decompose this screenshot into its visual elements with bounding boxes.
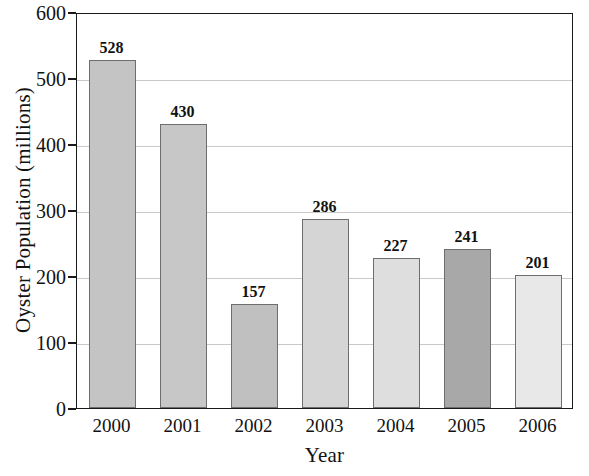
x-tick-label: 2005: [448, 415, 486, 437]
bar: [444, 249, 491, 408]
x-tick-label: 2002: [235, 415, 273, 437]
x-tick-label: 2004: [377, 415, 415, 437]
x-tick-label: 2001: [164, 415, 202, 437]
y-tick-mark: [68, 210, 76, 212]
gridline: [77, 80, 572, 81]
bar-value-label: 227: [384, 237, 408, 255]
bar: [89, 60, 136, 408]
y-tick-mark: [68, 408, 76, 410]
bar: [373, 258, 420, 408]
bar: [160, 124, 207, 408]
gridline: [77, 146, 572, 147]
y-tick-mark: [68, 12, 76, 14]
bar: [231, 304, 278, 408]
y-tick-mark: [68, 342, 76, 344]
x-tick-label: 2000: [93, 415, 131, 437]
x-tick-label: 2006: [519, 415, 557, 437]
x-axis-title: Year: [76, 443, 573, 468]
bar-value-label: 430: [171, 103, 195, 121]
bar-value-label: 241: [455, 228, 479, 246]
bar-value-label: 201: [526, 254, 550, 272]
y-tick-mark: [68, 144, 76, 146]
y-tick-mark: [68, 78, 76, 80]
y-tick-mark: [68, 276, 76, 278]
bar-value-label: 528: [100, 39, 124, 57]
x-tick-label: 2003: [306, 415, 344, 437]
bar-value-label: 157: [242, 283, 266, 301]
y-axis-title: Oyster Population (millions): [6, 0, 40, 420]
bar-value-label: 286: [313, 198, 337, 216]
bar: [515, 275, 562, 408]
bar: [302, 219, 349, 408]
bar-chart: Oyster Population (millions) 01002003004…: [0, 0, 589, 476]
